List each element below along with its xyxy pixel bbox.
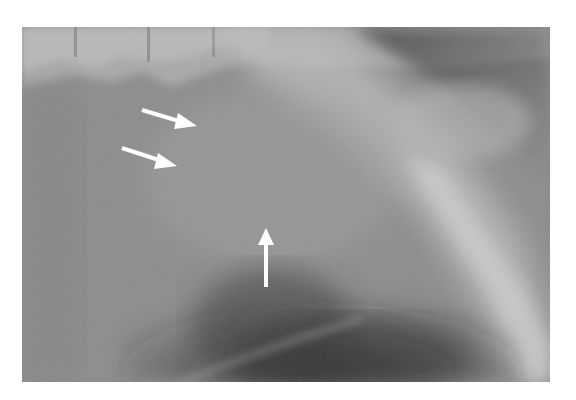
- radiograph-image: [22, 27, 550, 382]
- radiograph-render: [22, 27, 550, 382]
